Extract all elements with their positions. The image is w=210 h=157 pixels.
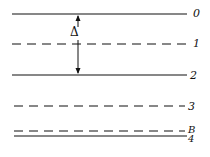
level-label-4: 4 <box>188 134 194 144</box>
level-diagram <box>0 0 210 157</box>
delta-label: Δ <box>70 26 79 38</box>
level-label-1: 1 <box>193 38 200 49</box>
level-label-2: 2 <box>190 70 197 81</box>
arrowhead-up-icon <box>76 15 81 21</box>
level-label-0: 0 <box>193 8 200 19</box>
level-label-3: 3 <box>188 101 195 112</box>
arrowhead-down-icon <box>76 68 81 74</box>
